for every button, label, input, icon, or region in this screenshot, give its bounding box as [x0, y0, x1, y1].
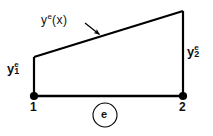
figure-canvas: ye(x) ye1 ye2 1 2 e — [0, 0, 213, 136]
node1-value-label: ye1 — [7, 61, 19, 76]
function-argument: (x) — [52, 13, 68, 27]
node1-value-subscript: 1 — [14, 67, 19, 75]
interpolation-function-label: ye(x) — [41, 13, 67, 26]
node1-marker-icon — [30, 92, 38, 100]
leader-arrow-icon — [85, 23, 100, 35]
node2-marker-icon — [179, 92, 187, 100]
element-tag-label: e — [101, 109, 107, 120]
node2-number-label: 2 — [179, 101, 186, 113]
node2-value-scripts: e2 — [194, 44, 199, 59]
node2-value-label: ye2 — [187, 44, 199, 59]
node2-value-subscript: 2 — [194, 50, 199, 58]
node1-value-base: y — [7, 61, 14, 76]
node1-value-scripts: e1 — [14, 61, 19, 76]
node1-number-label: 1 — [30, 101, 37, 113]
node2-value-base: y — [187, 44, 194, 59]
